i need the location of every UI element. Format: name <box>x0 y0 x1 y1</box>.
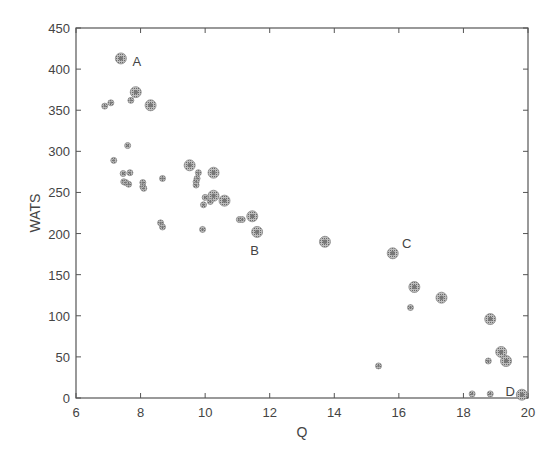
small-data-point <box>108 100 114 106</box>
annotation-b: B <box>250 243 259 258</box>
x-tick-label: 14 <box>327 405 341 420</box>
small-data-point <box>125 143 131 149</box>
x-tick-label: 12 <box>262 405 276 420</box>
small-data-point <box>376 363 382 369</box>
x-tick-label: 20 <box>521 405 535 420</box>
large-data-point <box>252 226 263 237</box>
data-points <box>102 53 528 400</box>
large-data-point <box>485 314 496 325</box>
large-data-point <box>387 248 398 259</box>
large-data-point <box>219 195 230 206</box>
small-data-point <box>239 217 245 223</box>
small-data-point <box>120 171 126 177</box>
y-tick-label: 350 <box>48 103 70 118</box>
small-data-point <box>160 175 166 181</box>
scatter-chart: 6810121416182005010015020025030035040045… <box>0 0 560 453</box>
y-tick-label: 200 <box>48 227 70 242</box>
small-data-point <box>487 391 493 397</box>
small-data-point <box>126 181 132 187</box>
annotation-d: D <box>505 384 514 399</box>
small-data-point <box>202 194 208 200</box>
small-data-point <box>160 224 166 230</box>
large-data-point <box>516 389 527 400</box>
plot-frame <box>76 28 528 398</box>
large-data-point <box>319 236 330 247</box>
small-data-point <box>485 358 491 364</box>
small-data-point <box>195 170 201 176</box>
y-tick-label: 100 <box>48 309 70 324</box>
x-tick-label: 16 <box>392 405 406 420</box>
small-data-point <box>111 157 117 163</box>
x-tick-label: 10 <box>198 405 212 420</box>
x-axis-label: Q <box>297 424 308 440</box>
large-data-point <box>247 211 258 222</box>
y-tick-label: 150 <box>48 268 70 283</box>
small-data-point <box>128 97 134 103</box>
point-annotations: ABCD <box>133 54 515 400</box>
small-data-point <box>200 226 206 232</box>
large-data-point <box>208 167 219 178</box>
small-data-point <box>407 305 413 311</box>
annotation-a: A <box>133 54 142 69</box>
large-data-point <box>115 53 126 64</box>
large-data-point <box>409 282 420 293</box>
large-data-point <box>145 100 156 111</box>
small-data-point <box>193 182 199 188</box>
small-data-point <box>207 198 213 204</box>
small-data-point <box>469 391 475 397</box>
small-data-point <box>127 170 133 176</box>
large-data-point <box>501 356 512 367</box>
axis-ticks: 6810121416182005010015020025030035040045… <box>48 21 535 420</box>
y-tick-label: 400 <box>48 62 70 77</box>
y-tick-label: 50 <box>56 350 70 365</box>
large-data-point <box>436 292 447 303</box>
y-tick-label: 450 <box>48 21 70 36</box>
small-data-point <box>102 103 108 109</box>
x-tick-label: 18 <box>456 405 470 420</box>
y-axis-label: WATS <box>27 194 43 233</box>
y-tick-label: 0 <box>63 391 70 406</box>
large-data-point <box>184 160 195 171</box>
y-tick-label: 300 <box>48 144 70 159</box>
x-tick-label: 6 <box>72 405 79 420</box>
large-data-point <box>130 87 141 98</box>
annotation-c: C <box>402 236 411 251</box>
y-tick-label: 250 <box>48 185 70 200</box>
small-data-point <box>201 202 207 208</box>
small-data-point <box>141 185 147 191</box>
x-tick-label: 8 <box>137 405 144 420</box>
